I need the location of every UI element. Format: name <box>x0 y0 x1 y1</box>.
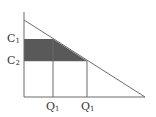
q1-label-left: Q1 <box>46 101 60 112</box>
c2-label: C2 <box>7 55 20 66</box>
q1-label-right: Q1 <box>81 101 95 112</box>
diagram-graphic <box>0 0 156 117</box>
diagram: C1 C2 Q1 Q1 <box>0 0 156 117</box>
c1-label: C1 <box>7 33 20 44</box>
shaded-area <box>24 39 87 61</box>
